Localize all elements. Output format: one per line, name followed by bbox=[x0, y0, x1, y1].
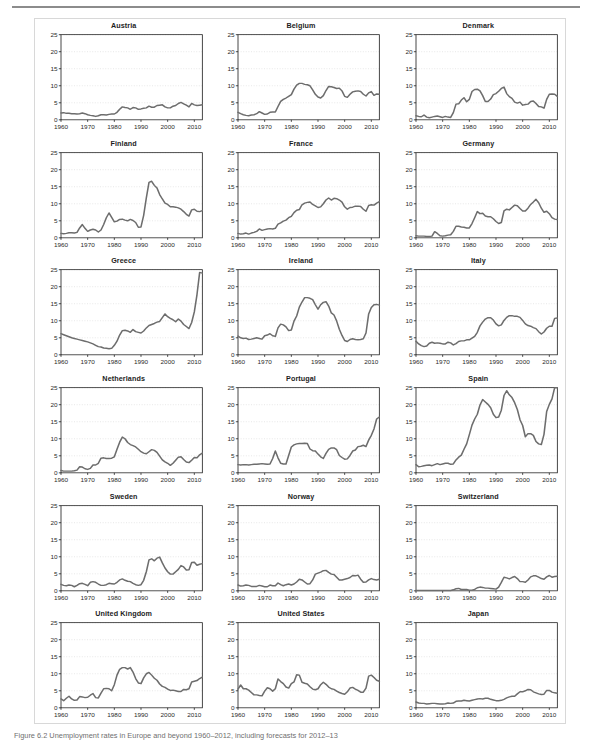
x-tick-label: 1990 bbox=[311, 358, 326, 365]
panel-title: United States bbox=[212, 609, 389, 618]
x-tick-label: 2000 bbox=[338, 711, 353, 718]
y-tick-label: 20 bbox=[50, 401, 58, 408]
y-tick-label: 10 bbox=[50, 553, 58, 560]
x-tick-label: 2010 bbox=[187, 241, 202, 248]
y-tick-label: 10 bbox=[50, 670, 58, 677]
y-tick-label: 5 bbox=[409, 334, 413, 341]
y-tick-label: 10 bbox=[405, 553, 413, 560]
y-tick-label: 20 bbox=[405, 519, 413, 526]
y-tick-label: 5 bbox=[54, 452, 58, 459]
axis-frame bbox=[416, 505, 557, 590]
y-tick-label: 20 bbox=[228, 166, 236, 173]
axis-frame bbox=[416, 623, 557, 708]
axis-frame bbox=[238, 35, 379, 120]
panel-finland: Finland051015202519601970198019902000201… bbox=[35, 137, 212, 255]
y-tick-label: 5 bbox=[231, 452, 235, 459]
x-tick-label: 2010 bbox=[542, 476, 557, 483]
plot-area: 0510152025196019701980199020002010 bbox=[212, 618, 389, 725]
y-tick-label: 25 bbox=[405, 502, 413, 509]
axis-frame bbox=[238, 152, 379, 237]
x-tick-label: 1960 bbox=[409, 241, 424, 248]
x-tick-label: 1990 bbox=[489, 358, 504, 365]
panel-united-states: United States051015202519601970198019902… bbox=[212, 607, 389, 725]
panel-title: Greece bbox=[35, 256, 212, 265]
y-tick-label: 25 bbox=[405, 266, 413, 273]
y-tick-label: 25 bbox=[405, 384, 413, 391]
panel-portugal: Portugal05101520251960197019801990200020… bbox=[212, 372, 389, 490]
x-tick-label: 2010 bbox=[365, 476, 380, 483]
plot-area: 0510152025196019701980199020002010 bbox=[35, 383, 212, 490]
x-tick-label: 1980 bbox=[462, 594, 477, 601]
x-tick-label: 2010 bbox=[365, 241, 380, 248]
x-tick-label: 1960 bbox=[54, 358, 69, 365]
x-tick-label: 1980 bbox=[462, 358, 477, 365]
x-tick-label: 1960 bbox=[231, 358, 246, 365]
x-tick-label: 1980 bbox=[285, 594, 300, 601]
y-tick-label: 15 bbox=[50, 653, 58, 660]
x-tick-label: 2010 bbox=[365, 711, 380, 718]
x-tick-label: 1980 bbox=[285, 241, 300, 248]
axis-frame bbox=[416, 152, 557, 237]
plot-area: 0510152025196019701980199020002010 bbox=[390, 30, 567, 137]
series-line bbox=[238, 570, 379, 586]
x-tick-label: 1990 bbox=[311, 476, 326, 483]
y-tick-label: 5 bbox=[409, 570, 413, 577]
x-tick-label: 2010 bbox=[187, 476, 202, 483]
y-tick-label: 20 bbox=[50, 283, 58, 290]
x-tick-label: 1960 bbox=[231, 594, 246, 601]
x-tick-label: 2000 bbox=[161, 594, 176, 601]
series-line bbox=[61, 181, 202, 233]
x-tick-label: 1990 bbox=[489, 241, 504, 248]
y-tick-label: 10 bbox=[405, 435, 413, 442]
y-tick-label: 10 bbox=[228, 317, 236, 324]
y-tick-label: 15 bbox=[228, 65, 236, 72]
x-tick-label: 2000 bbox=[338, 594, 353, 601]
panel-switzerland: Switzerland05101520251960197019801990200… bbox=[390, 490, 567, 608]
plot-area: 0510152025196019701980199020002010 bbox=[390, 148, 567, 255]
x-tick-label: 1980 bbox=[462, 241, 477, 248]
series-line bbox=[61, 668, 202, 701]
x-tick-label: 2010 bbox=[542, 123, 557, 130]
x-tick-label: 1990 bbox=[489, 711, 504, 718]
x-tick-label: 2000 bbox=[338, 476, 353, 483]
plot-area: 0510152025196019701980199020002010 bbox=[35, 501, 212, 608]
y-tick-label: 20 bbox=[50, 636, 58, 643]
plot-area: 0510152025196019701980199020002010 bbox=[212, 30, 389, 137]
plot-area: 0510152025196019701980199020002010 bbox=[35, 265, 212, 372]
x-tick-label: 1970 bbox=[435, 358, 450, 365]
x-tick-label: 2000 bbox=[338, 358, 353, 365]
series-line bbox=[238, 675, 379, 696]
panel-title: Spain bbox=[390, 374, 567, 383]
x-tick-label: 1980 bbox=[285, 123, 300, 130]
x-tick-label: 1970 bbox=[81, 594, 96, 601]
plot-area: 0510152025196019701980199020002010 bbox=[35, 148, 212, 255]
x-tick-label: 1990 bbox=[134, 241, 149, 248]
panel-title: Denmark bbox=[390, 21, 567, 30]
x-tick-label: 1990 bbox=[489, 594, 504, 601]
x-tick-label: 1970 bbox=[81, 711, 96, 718]
y-tick-label: 5 bbox=[409, 687, 413, 694]
series-line bbox=[416, 575, 557, 590]
x-tick-label: 1980 bbox=[107, 241, 122, 248]
page-top-rule bbox=[12, 6, 580, 8]
y-tick-label: 25 bbox=[228, 31, 236, 38]
series-line bbox=[61, 102, 202, 116]
x-tick-label: 1980 bbox=[462, 476, 477, 483]
x-tick-label: 2000 bbox=[161, 358, 176, 365]
y-tick-label: 5 bbox=[54, 687, 58, 694]
series-line bbox=[238, 417, 379, 465]
x-tick-label: 1990 bbox=[311, 711, 326, 718]
x-tick-label: 2000 bbox=[161, 123, 176, 130]
y-tick-label: 25 bbox=[50, 266, 58, 273]
x-tick-label: 2000 bbox=[515, 476, 530, 483]
x-tick-label: 2000 bbox=[161, 241, 176, 248]
x-tick-label: 1960 bbox=[54, 123, 69, 130]
y-tick-label: 20 bbox=[228, 283, 236, 290]
series-line bbox=[416, 690, 557, 705]
x-tick-label: 1960 bbox=[231, 476, 246, 483]
y-tick-label: 20 bbox=[228, 636, 236, 643]
panel-greece: Greece0510152025196019701980199020002010 bbox=[35, 254, 212, 372]
panel-denmark: Denmark051015202519601970198019902000201… bbox=[390, 19, 567, 137]
panel-title: Japan bbox=[390, 609, 567, 618]
y-tick-label: 5 bbox=[409, 217, 413, 224]
